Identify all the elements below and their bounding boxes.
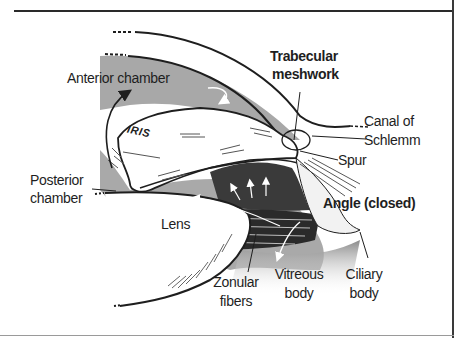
label-lens: Lens (161, 216, 190, 232)
ciliary-leader (360, 232, 368, 258)
label-posterior-chamber-line2: chamber (30, 190, 82, 206)
label-posterior-chamber-line1: Posterior (30, 172, 83, 188)
label-canal-of-schlemm-line2: Schlemm (364, 132, 420, 148)
label-trabecular-meshwork-line2: meshwork (272, 66, 339, 82)
schlemm-leader (312, 136, 366, 139)
label-angle-closed: Angle (closed) (323, 195, 415, 211)
spur-leader (300, 151, 338, 160)
label-vitreous-body-line2: body (268, 285, 330, 301)
label-canal-of-schlemm-line1: Canal of (364, 113, 414, 129)
label-vitreous-body-line1: Vitreous (268, 266, 330, 282)
label-ciliary-body-line2: body (339, 285, 389, 301)
label-zonular-fibers-line2: fibers (208, 293, 264, 309)
label-anterior-chamber: Anterior chamber (67, 70, 170, 86)
label-spur: Spur (338, 152, 366, 168)
label-trabecular-meshwork-line1: Trabecular (270, 48, 338, 64)
label-zonular-fibers-line1: Zonular (208, 274, 264, 290)
diagram-frame: Anterior chamber Trabecular meshwork Can… (0, 0, 458, 338)
label-ciliary-body-line1: Ciliary (339, 266, 389, 282)
